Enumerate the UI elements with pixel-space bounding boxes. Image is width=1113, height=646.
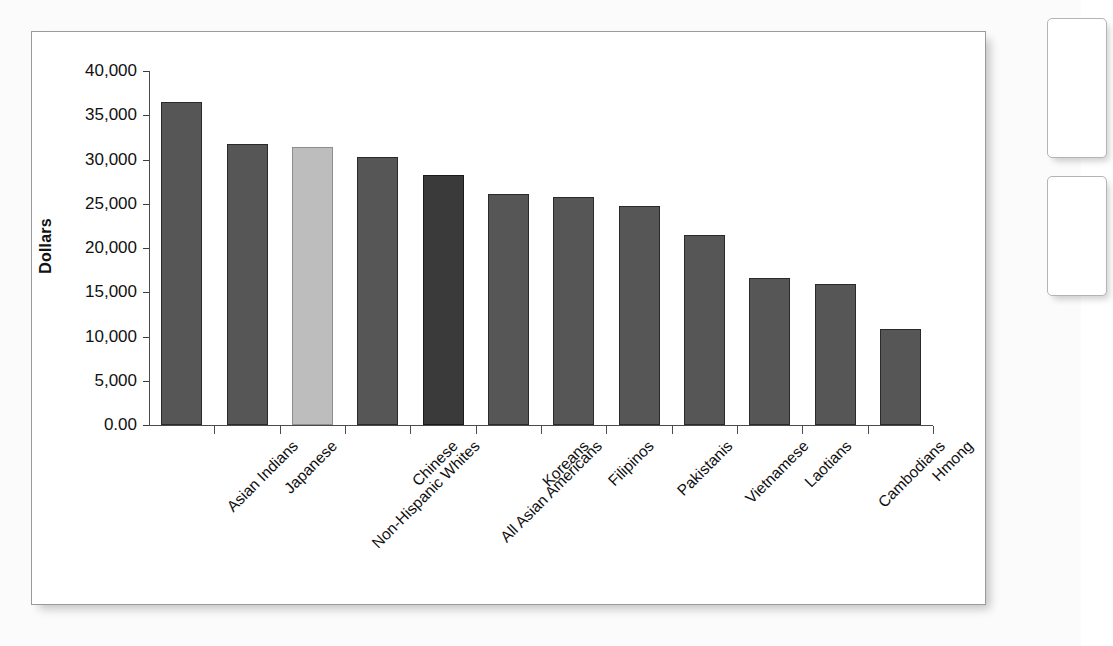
bar-pakistanis [619,206,660,425]
y-tick-label: 10,000 [45,328,137,345]
x-tick-mark [737,426,738,434]
side-panel-bottom [1047,176,1107,296]
bar-cambodians [815,284,856,425]
x-category-label-text: Vietnamese [742,437,812,507]
bar-chart: Dollars40,00035,00030,00025,00020,00015,… [32,32,1113,646]
x-category-label: Filipinos [604,437,657,490]
y-tick-label: 5,000 [45,372,137,389]
x-tick-mark [214,426,215,434]
bar-all-asian-americans [423,175,464,425]
bar-chinese [357,157,398,425]
y-tick-label: 30,000 [45,151,137,168]
side-panel-top [1047,18,1107,158]
bar-laotians [749,278,790,425]
y-tick-label: 35,000 [45,106,137,123]
x-category-label: All Asian Americans [497,437,606,546]
x-tick-mark [802,426,803,434]
bar-vietnamese [684,235,725,425]
x-category-label: Pakistanis [674,437,737,500]
bar-koreans [488,194,529,425]
x-category-label-text: Laotians [801,437,855,491]
x-tick-mark [933,426,934,434]
bar-filipinos [553,197,594,425]
x-tick-mark [606,426,607,434]
x-tick-mark [672,426,673,434]
x-category-label: Non-Hispanic Whites [369,437,484,552]
x-category-label-text: Filipinos [604,437,657,490]
x-tick-mark [541,426,542,434]
y-axis-line [149,71,150,426]
y-tick-label: 20,000 [45,239,137,256]
x-category-label-text: All Asian Americans [497,437,606,546]
bar-hmong [880,329,921,425]
bar-non-hispanic-whites [292,147,333,425]
x-tick-mark [868,426,869,434]
x-tick-mark [476,426,477,434]
y-tick-label: 25,000 [45,195,137,212]
bar-asian-indians [161,102,202,425]
x-tick-mark [345,426,346,434]
x-tick-mark [280,426,281,434]
x-category-label-text: Non-Hispanic Whites [369,437,484,552]
y-tick-label: 0.00 [45,416,137,433]
y-tick-label: 40,000 [45,62,137,79]
x-category-label-text: Pakistanis [674,437,737,500]
bar-japanese [227,144,268,425]
y-tick-label: 15,000 [45,283,137,300]
chart-figure-panel: Dollars40,00035,00030,00025,00020,00015,… [31,31,986,605]
x-category-label: Laotians [801,437,855,491]
x-category-label: Vietnamese [742,437,812,507]
x-tick-mark [410,426,411,434]
